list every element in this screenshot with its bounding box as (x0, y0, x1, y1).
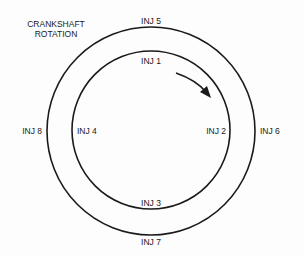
title-line-2: ROTATION (35, 29, 78, 39)
label-inj-4: INJ 4 (77, 126, 97, 136)
label-inj-5: INJ 5 (141, 16, 161, 26)
diagram-canvas: CRANKSHAFT ROTATION INJ 5 INJ 6 INJ 7 IN… (0, 0, 304, 256)
title-line-1: CRANKSHAFT (27, 19, 85, 29)
label-inj-7: INJ 7 (141, 237, 161, 247)
label-inj-1: INJ 1 (141, 56, 161, 66)
label-inj-3: INJ 3 (141, 198, 161, 208)
label-inj-6: INJ 6 (260, 126, 280, 136)
rotation-arrow-icon (176, 73, 211, 98)
label-inj-8: INJ 8 (22, 126, 42, 136)
label-inj-2: INJ 2 (206, 126, 226, 136)
crankshaft-firing-diagram: CRANKSHAFT ROTATION INJ 5 INJ 6 INJ 7 IN… (0, 0, 304, 256)
